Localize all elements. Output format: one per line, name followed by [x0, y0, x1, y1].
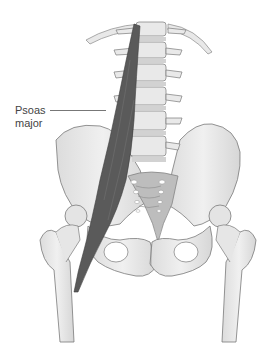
femur-right	[209, 205, 256, 342]
label-line-2: major	[15, 117, 46, 130]
psoas-major-leader-line	[50, 110, 106, 111]
psoas-major-label: Psoas major	[15, 104, 46, 130]
label-line-1: Psoas	[15, 104, 46, 117]
anatomy-illustration	[0, 0, 275, 358]
